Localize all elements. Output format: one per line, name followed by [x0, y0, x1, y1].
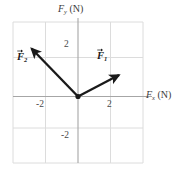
vector-overbar-arrow-icon: [17, 49, 24, 53]
origin-point: [75, 94, 80, 99]
y-axis-label: Fy (N): [58, 4, 83, 14]
x-axis-unit: (N): [158, 89, 172, 100]
y-tick-negative-2: -2: [61, 131, 69, 141]
axis-lines: [13, 18, 152, 163]
x-tick-positive-2: 2: [107, 100, 112, 110]
x-axis-label: Fx (N): [146, 90, 171, 100]
vector-f2-subscript: 2: [24, 56, 27, 63]
vector-f2: [32, 49, 79, 97]
vector-overbar-arrow-icon: [97, 48, 104, 52]
force-vector-diagram: Fy (N) Fx (N) -2 2 2 -2 F 2 F 1: [0, 0, 183, 179]
x-tick-negative-2: -2: [36, 100, 44, 110]
vector-label-f1: F 1: [97, 51, 107, 62]
vector-f1: [78, 75, 119, 97]
y-axis-subscript: y: [64, 8, 67, 15]
y-axis-unit: (N): [70, 3, 84, 14]
vector-f1-subscript: 1: [104, 55, 107, 62]
x-axis-subscript: x: [152, 94, 155, 101]
vector-label-f2: F 2: [17, 52, 27, 63]
y-tick-positive-2: 2: [64, 40, 69, 50]
